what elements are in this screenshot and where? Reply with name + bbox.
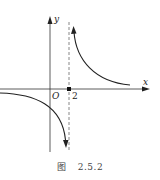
caption-number: 2.5.2 — [78, 162, 103, 172]
y-axis-arrow-icon — [48, 16, 53, 24]
asymptote-tick-label: 2 — [72, 91, 78, 101]
caption-prefix: 图 — [57, 162, 67, 172]
hyperbola-figure: y x O 2 — [0, 0, 160, 180]
upper-branch-arrow-icon — [71, 26, 77, 34]
graph-canvas: y x O 2 — [0, 0, 160, 180]
lower-branch-arrow-icon — [63, 140, 69, 148]
x-axis-label: x — [143, 77, 148, 87]
origin-label: O — [52, 91, 60, 101]
y-axis-label: y — [53, 14, 60, 24]
point-at-2 — [67, 87, 71, 91]
figure-caption: 图 2.5.2 — [0, 160, 160, 173]
upper-right-branch — [74, 32, 130, 85]
x-axis-arrow-icon — [142, 87, 150, 92]
